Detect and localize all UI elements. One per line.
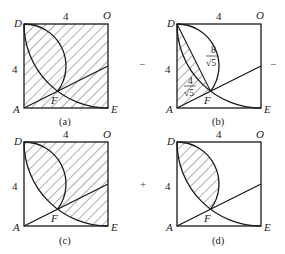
plus-operator: +: [140, 178, 146, 190]
shaded-lens-d: [177, 142, 219, 209]
label-F: F: [203, 94, 211, 106]
side-left-label: 4: [165, 180, 171, 192]
side-top-label: 4: [216, 128, 222, 140]
minus-operator-1: −: [139, 58, 145, 70]
label-A: A: [165, 103, 173, 115]
label-O: O: [256, 9, 264, 21]
label-E: E: [110, 221, 118, 233]
side-left-label: 4: [12, 63, 18, 75]
diagram: D O A E F 4 4 (a) − D O A E F 4 4 8 √5 4: [0, 0, 285, 254]
fraction-8-over-root5: 8 √5: [206, 45, 219, 68]
fraction-denominator: √5: [206, 58, 216, 68]
panel-c: D O A E F 4 4 (c): [12, 128, 118, 247]
minus-operator-2: −: [270, 58, 276, 70]
side-left-label: 4: [12, 180, 18, 192]
label-A: A: [12, 103, 20, 115]
label-A: A: [165, 221, 173, 233]
label-A: A: [12, 221, 20, 233]
label-D: D: [166, 135, 175, 147]
caption-a: (a): [59, 116, 71, 128]
label-E: E: [110, 103, 118, 115]
fraction-denominator: √5: [184, 88, 194, 98]
label-D: D: [13, 17, 22, 29]
caption-c: (c): [59, 235, 71, 247]
caption-b: (b): [212, 116, 225, 128]
fraction-numerator: 8: [211, 45, 216, 55]
label-E: E: [263, 103, 271, 115]
panel-a: D O A E F 4 4 (a): [12, 9, 118, 128]
label-O: O: [256, 128, 264, 140]
panel-b: D O A E F 4 4 8 √5 4 √5 (b): [165, 9, 271, 128]
side-top-label: 4: [63, 10, 69, 22]
label-O: O: [103, 128, 111, 140]
label-D: D: [13, 135, 22, 147]
label-F: F: [50, 94, 58, 106]
label-F: F: [50, 212, 58, 224]
label-O: O: [103, 9, 111, 21]
label-D: D: [166, 17, 175, 29]
side-top-label: 4: [63, 128, 69, 140]
panel-d: D O A E F 4 4 (d): [165, 128, 271, 247]
label-E: E: [263, 221, 271, 233]
caption-d: (d): [212, 235, 225, 247]
side-left-label: 4: [165, 63, 171, 75]
fraction-numerator: 4: [188, 76, 193, 86]
label-F: F: [203, 212, 211, 224]
side-top-label: 4: [216, 10, 222, 22]
